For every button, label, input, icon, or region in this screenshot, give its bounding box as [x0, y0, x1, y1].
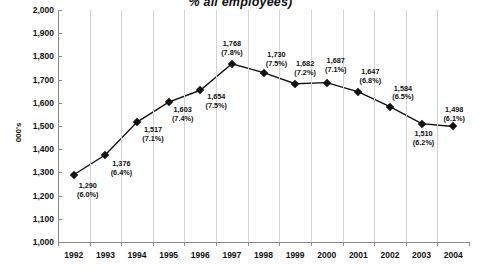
x-tick-label: 1996 [191, 250, 210, 260]
x-tick-mark [216, 242, 217, 246]
y-tick-label: 1,100 [4, 214, 54, 224]
data-point-percent: (7.1%) [142, 135, 164, 144]
data-point-label: 1,498(6.1%) [443, 106, 465, 124]
y-tick-mark [58, 103, 62, 104]
x-tick-mark [184, 242, 185, 246]
x-tick-mark [121, 242, 122, 246]
x-tick-mark [374, 242, 375, 246]
gridline-vertical [184, 10, 185, 242]
chart-title: % all employees) [0, 0, 481, 9]
chart-container: % all employees) 000's 2,0001,9001,8001,… [0, 0, 481, 269]
x-tick-label: 2001 [349, 250, 368, 260]
x-tick-label: 1992 [64, 250, 83, 260]
x-tick-mark [279, 242, 280, 246]
gridline-vertical [90, 10, 91, 242]
x-tick-label: 1998 [254, 250, 273, 260]
y-tick-mark [58, 196, 62, 197]
gridline-vertical [343, 10, 344, 242]
x-tick-mark [437, 242, 438, 246]
data-series-line [58, 10, 469, 242]
y-tick-mark [58, 242, 62, 243]
x-tick-label: 1999 [286, 250, 305, 260]
y-tick-label: 1,900 [4, 28, 54, 38]
data-point-percent: (7.8%) [221, 49, 243, 58]
gridline-vertical [121, 10, 122, 242]
data-point-percent: (7.5%) [206, 102, 228, 111]
data-point-percent: (7.4%) [172, 115, 194, 124]
y-tick-mark [58, 80, 62, 81]
data-point-label: 1,376(6.4%) [111, 160, 133, 178]
y-tick-label: 1,500 [4, 121, 54, 131]
data-point-percent: (7.5%) [266, 60, 288, 69]
x-tick-label: 1993 [96, 250, 115, 260]
data-point-percent: (6.2%) [413, 139, 435, 148]
y-tick-label: 1,600 [4, 98, 54, 108]
data-point-percent: (7.1%) [325, 66, 347, 75]
y-tick-label: 2,000 [4, 5, 54, 15]
data-point-label: 1,290(6.0%) [77, 182, 99, 200]
data-point-percent: (6.1%) [443, 115, 465, 124]
gridline-vertical [437, 10, 438, 242]
y-tick-mark [58, 219, 62, 220]
x-tick-mark [469, 242, 470, 246]
plot-area [58, 10, 469, 242]
x-tick-mark [248, 242, 249, 246]
y-tick-mark [58, 10, 62, 11]
data-point-percent: (6.4%) [111, 169, 133, 178]
x-tick-label: 2002 [380, 250, 399, 260]
data-point-percent: (7.2%) [294, 69, 316, 78]
y-tick-label: 1,300 [4, 167, 54, 177]
data-point-label: 1,768(7.8%) [221, 40, 243, 58]
data-point-label: 1,603(7.4%) [172, 106, 194, 124]
y-tick-label: 1,400 [4, 144, 54, 154]
data-point-label: 1,730(7.5%) [266, 51, 288, 69]
x-axis-line [58, 242, 469, 243]
y-tick-mark [58, 56, 62, 57]
data-point-label: 1,517(7.1%) [142, 126, 164, 144]
y-tick-label: 1,200 [4, 191, 54, 201]
data-point-label: 1,687(7.1%) [325, 57, 347, 75]
data-point-label: 1,647(6.8%) [360, 68, 382, 86]
x-tick-label: 2000 [317, 250, 336, 260]
gridline-vertical [248, 10, 249, 242]
y-tick-label: 1,700 [4, 75, 54, 85]
data-point-label: 1,654(7.5%) [206, 93, 228, 111]
y-tick-label: 1,000 [4, 237, 54, 247]
gridline-vertical [406, 10, 407, 242]
x-tick-mark [311, 242, 312, 246]
x-tick-label: 2003 [412, 250, 431, 260]
x-tick-mark [90, 242, 91, 246]
data-point-percent: (6.5%) [392, 93, 414, 102]
gridline-vertical [374, 10, 375, 242]
data-point-percent: (6.8%) [360, 77, 382, 86]
y-tick-mark [58, 172, 62, 173]
x-tick-label: 1997 [222, 250, 241, 260]
y-tick-mark [58, 126, 62, 127]
data-point-label: 1,510(6.2%) [413, 130, 435, 148]
x-tick-mark [406, 242, 407, 246]
y-tick-mark [58, 149, 62, 150]
y-tick-label: 1,800 [4, 51, 54, 61]
gridline-vertical [279, 10, 280, 242]
x-tick-label: 2004 [444, 250, 463, 260]
gridline-vertical [216, 10, 217, 242]
data-point-label: 1,584(6.5%) [392, 85, 414, 103]
x-tick-mark [153, 242, 154, 246]
data-point-percent: (6.0%) [77, 191, 99, 200]
gridline-vertical [311, 10, 312, 242]
y-tick-mark [58, 33, 62, 34]
x-tick-label: 1995 [159, 250, 178, 260]
x-tick-mark [343, 242, 344, 246]
x-tick-label: 1994 [128, 250, 147, 260]
data-point-label: 1,682(7.2%) [294, 60, 316, 78]
y-axis-ticks: 2,0001,9001,8001,7001,6001,5001,4001,300… [0, 0, 54, 269]
